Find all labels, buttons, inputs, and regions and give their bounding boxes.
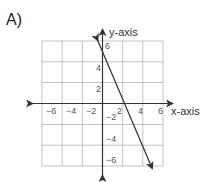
svg-text:−2: −2 <box>106 112 116 122</box>
svg-text:2: 2 <box>96 84 101 94</box>
coordinate-plane: −6 −4 −2 2 4 6 6 4 2 −2 −4 −6 y-axis x-a… <box>0 0 204 182</box>
svg-text:−6: −6 <box>106 155 116 165</box>
svg-text:−2: −2 <box>86 106 96 116</box>
svg-text:−4: −4 <box>66 106 76 116</box>
svg-text:4: 4 <box>96 63 101 73</box>
svg-text:−6: −6 <box>46 106 56 116</box>
svg-text:2: 2 <box>117 106 122 116</box>
svg-text:6: 6 <box>105 41 110 51</box>
x-axis-label: x-axis <box>171 105 200 117</box>
x-tick-labels: −6 −4 −2 2 4 6 <box>46 106 163 116</box>
svg-text:−4: −4 <box>106 134 116 144</box>
svg-text:6: 6 <box>158 106 163 116</box>
y-axis-label: y-axis <box>109 26 138 38</box>
svg-text:4: 4 <box>138 106 143 116</box>
